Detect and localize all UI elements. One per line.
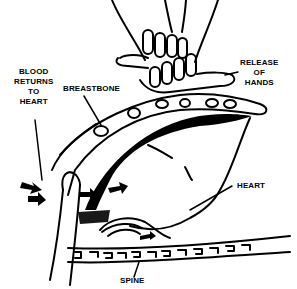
heart-outline	[130, 118, 250, 229]
spine-top	[68, 236, 290, 249]
left-arm-inner	[165, 0, 172, 32]
arrow-icon	[20, 182, 42, 194]
label-blood-returns: BLOOD RETURNS TO HEART	[14, 67, 53, 107]
right-arm	[195, 0, 218, 62]
right-arm-inner	[182, 0, 186, 32]
spine-bottom	[68, 252, 290, 262]
leader-heart	[190, 186, 232, 210]
leader-blood	[35, 120, 42, 180]
breastbone-inner	[52, 124, 96, 170]
leader-spine	[134, 262, 139, 277]
left-arm	[112, 0, 145, 60]
cpr-illustration	[0, 0, 297, 289]
aorta	[50, 190, 63, 280]
arrow-icon	[28, 192, 46, 206]
label-heart: HEART	[237, 181, 265, 191]
arrow-icon	[108, 182, 128, 194]
arrow-icon	[140, 231, 156, 240]
leader-breastbone	[84, 96, 101, 125]
cpr-diagram: BLOOD RETURNS TO HEART BREASTBONE RELEAS…	[0, 0, 297, 289]
label-release-of-hands: RELEASE OF HANDS	[240, 58, 279, 88]
chest-cavity-shadow	[85, 114, 252, 210]
label-spine: SPINE	[120, 276, 145, 286]
label-breastbone: BREASTBONE	[63, 84, 120, 94]
